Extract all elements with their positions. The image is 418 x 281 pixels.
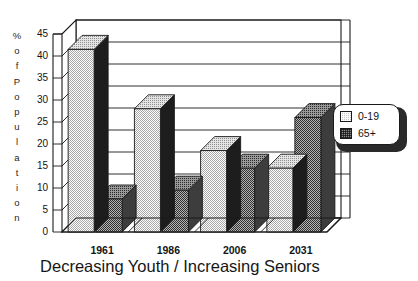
- legend-label: 65+: [358, 128, 376, 139]
- legend-swatch-icon: [340, 111, 352, 122]
- legend-swatch-icon: [340, 128, 352, 139]
- x-axis-title: Decreasing Youth / Increasing Seniors: [0, 256, 360, 276]
- x-axis-tick-label: 1961: [90, 244, 113, 256]
- bar: [134, 95, 174, 232]
- x-axis-tick-label: 1986: [157, 244, 180, 256]
- legend-item-0-19: 0-19: [334, 108, 399, 125]
- legend-label: 0-19: [358, 111, 379, 122]
- legend: 0-19 65+: [333, 104, 407, 152]
- x-axis-tick-label: 2031: [289, 244, 312, 256]
- x-axis-tick-label: 2006: [223, 244, 246, 256]
- legend-box: 0-19 65+: [333, 104, 400, 145]
- legend-item-65plus: 65+: [334, 125, 399, 142]
- bar-chart: % o f P o p u l a t i o n 05101520253035…: [0, 0, 418, 281]
- bar: [68, 35, 108, 232]
